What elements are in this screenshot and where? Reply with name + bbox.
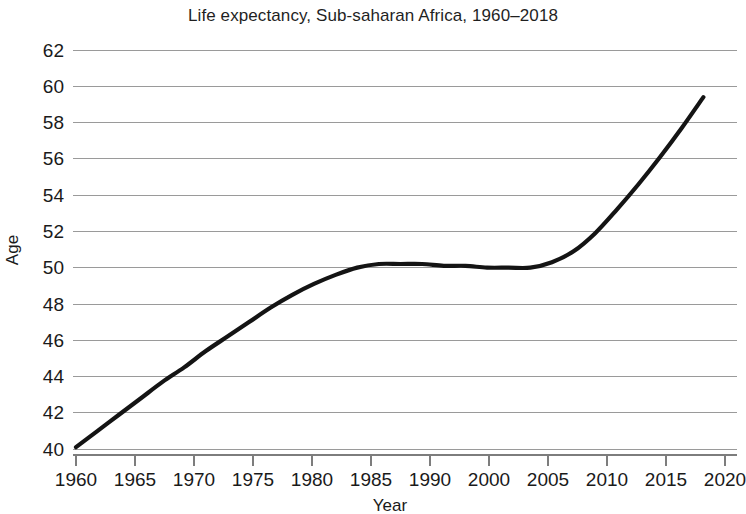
y-tick-label: 54 bbox=[43, 185, 65, 206]
x-tick-label: 2000 bbox=[468, 469, 510, 490]
line-chart-plot: 62 60 58 56 54 52 50 48 46 44 42 40 bbox=[0, 0, 746, 514]
y-tick-label: 40 bbox=[43, 439, 64, 460]
data-series-line bbox=[76, 97, 703, 447]
y-tick-label: 50 bbox=[43, 257, 64, 278]
x-tick-label: 2005 bbox=[527, 469, 569, 490]
x-axis-tick-marks bbox=[76, 455, 725, 466]
y-tick-label: 58 bbox=[43, 112, 64, 133]
y-tick-label: 52 bbox=[43, 221, 64, 242]
y-tick-label: 48 bbox=[43, 294, 64, 315]
x-tick-label: 2020 bbox=[704, 469, 746, 490]
x-axis-tick-labels: 1960 1965 1970 1975 1980 1985 1990 2000 … bbox=[55, 469, 746, 490]
y-tick-label: 56 bbox=[43, 148, 64, 169]
chart-container: Life expectancy, Sub-saharan Africa, 196… bbox=[0, 0, 746, 514]
x-tick-label: 1975 bbox=[232, 469, 274, 490]
y-tick-label: 62 bbox=[43, 40, 64, 61]
x-axis-title: Year bbox=[373, 496, 408, 514]
y-tick-label: 44 bbox=[43, 366, 65, 387]
x-tick-label: 2010 bbox=[586, 469, 628, 490]
y-axis-tick-labels: 62 60 58 56 54 52 50 48 46 44 42 40 bbox=[43, 40, 65, 460]
x-tick-label: 1980 bbox=[291, 469, 333, 490]
x-tick-label: 1960 bbox=[55, 469, 97, 490]
gridlines bbox=[73, 50, 737, 449]
x-tick-label: 2015 bbox=[645, 469, 687, 490]
y-axis-title: Age bbox=[3, 235, 22, 265]
y-tick-label: 46 bbox=[43, 330, 64, 351]
x-tick-label: 1985 bbox=[350, 469, 392, 490]
x-tick-label: 1990 bbox=[409, 469, 451, 490]
x-tick-label: 1970 bbox=[173, 469, 215, 490]
y-tick-label: 42 bbox=[43, 402, 64, 423]
x-tick-label: 1965 bbox=[114, 469, 156, 490]
y-tick-label: 60 bbox=[43, 76, 64, 97]
